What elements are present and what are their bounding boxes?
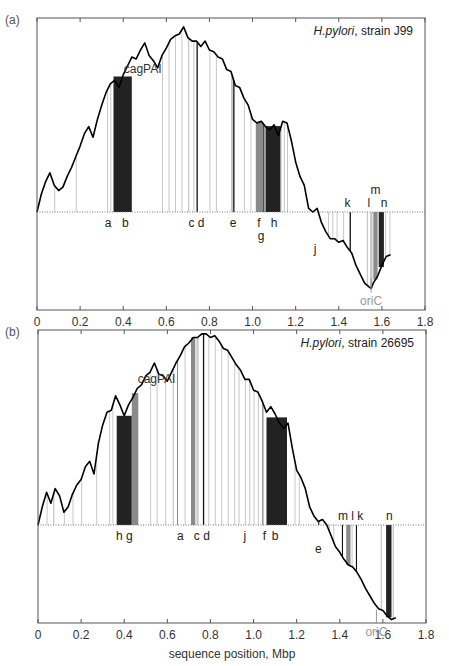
island-bar xyxy=(209,50,210,212)
island-bar xyxy=(332,212,333,239)
island-bar xyxy=(114,77,132,213)
island-bar xyxy=(342,525,343,557)
island-label: f xyxy=(263,529,267,543)
island-bar xyxy=(203,334,204,525)
island-bar xyxy=(208,336,209,525)
oric-label: oriC xyxy=(365,625,387,639)
island-bar xyxy=(112,405,113,525)
island-bar xyxy=(284,122,285,212)
island-bar xyxy=(346,525,350,565)
island-label: b xyxy=(122,216,129,230)
island-bar xyxy=(169,43,170,212)
strain-title: H.pylori, strain J99 xyxy=(314,24,414,38)
x-tick-label: 1.0 xyxy=(245,628,262,642)
island-label: c d xyxy=(189,216,205,230)
island-bar xyxy=(221,346,222,526)
island-label: b xyxy=(272,529,279,543)
x-tick-label: 0.6 xyxy=(158,315,175,329)
island-bar xyxy=(245,379,246,525)
island-bar xyxy=(254,391,255,526)
x-tick-label: 1.8 xyxy=(417,315,434,329)
strain-name: , strain 26695 xyxy=(341,336,414,350)
island-bar xyxy=(258,393,259,525)
island-bar xyxy=(386,525,391,617)
x-tick-label: 1.2 xyxy=(288,628,305,642)
species-name: H.pylori xyxy=(314,24,355,38)
panel-b: 00.20.40.60.81.01.21.41.61.8(b)H.pylori,… xyxy=(5,325,435,642)
island-bar xyxy=(389,212,390,255)
island-bar xyxy=(188,38,189,212)
x-tick-label: 1.4 xyxy=(330,315,347,329)
island-bar xyxy=(393,525,394,619)
panel-a: 00.20.40.60.81.01.21.41.61.8(a)H.pylori,… xyxy=(5,13,434,329)
island-bar xyxy=(47,493,48,525)
island-bar xyxy=(249,381,250,526)
island-label: j xyxy=(313,242,317,256)
island-bar xyxy=(73,493,74,525)
island-bar xyxy=(266,126,281,212)
x-tick-label: 1.0 xyxy=(244,315,261,329)
skew-curve xyxy=(37,27,391,289)
island-bar xyxy=(356,525,357,572)
island-bar xyxy=(244,99,245,212)
island-bar xyxy=(215,336,216,525)
island-label: e xyxy=(230,216,237,230)
island-bar xyxy=(250,114,251,212)
island-label: f xyxy=(257,216,261,230)
island-label: a xyxy=(177,529,184,543)
island-bar xyxy=(350,212,351,251)
island-label: n xyxy=(381,196,388,210)
island-bar xyxy=(379,212,384,267)
island-bar xyxy=(177,361,178,526)
island-bar xyxy=(256,122,263,212)
x-tick-label: 1.4 xyxy=(331,628,348,642)
island-bar xyxy=(196,338,198,526)
island-bar xyxy=(185,346,186,525)
island-label: c d xyxy=(194,529,210,543)
island-bar xyxy=(328,212,329,236)
island-bar xyxy=(162,55,163,212)
island-bar xyxy=(299,475,300,525)
island-bar xyxy=(239,368,240,525)
island-bar xyxy=(109,411,110,525)
island-bar xyxy=(370,212,373,288)
cagpai-annotation: cagPAI xyxy=(124,62,162,76)
island-bar xyxy=(157,370,158,525)
island-bar xyxy=(175,36,176,212)
island-bar xyxy=(81,478,82,525)
cagpai-annotation: cagPAI xyxy=(138,372,176,386)
island-bar xyxy=(107,90,108,212)
island-bar xyxy=(367,212,368,286)
island-bar xyxy=(231,75,233,212)
island-bar xyxy=(373,212,377,280)
island-bar xyxy=(216,55,217,212)
x-tick-label: 0.2 xyxy=(72,315,89,329)
x-tick-label: 0 xyxy=(34,315,41,329)
island-bar xyxy=(193,41,194,212)
island-bar xyxy=(385,212,386,258)
island-bar xyxy=(337,212,338,241)
island-bar xyxy=(281,127,282,212)
island-bar xyxy=(76,156,77,212)
island-bar xyxy=(96,456,97,526)
island-label: h g xyxy=(116,529,133,543)
island-label: n xyxy=(386,509,393,523)
island-label: l xyxy=(368,196,371,210)
island-bar xyxy=(343,212,344,241)
island-bar xyxy=(267,417,288,525)
island-bar xyxy=(381,525,382,610)
island-bar xyxy=(262,403,263,525)
island-label: e xyxy=(315,542,322,556)
x-tick-label: 1.2 xyxy=(287,315,304,329)
chart: 00.20.40.60.81.01.21.41.61.8(a)H.pylori,… xyxy=(0,0,449,666)
x-tick-label: 0.4 xyxy=(115,315,132,329)
oric-label: oriC xyxy=(360,294,382,308)
island-bar xyxy=(263,125,264,212)
x-tick-label: 0.6 xyxy=(159,628,176,642)
island-bar xyxy=(233,81,234,212)
strain-name: , strain J99 xyxy=(354,24,413,38)
island-bar xyxy=(110,84,111,213)
island-bar xyxy=(173,369,174,526)
island-bar xyxy=(352,525,353,567)
x-tick-label: 0.8 xyxy=(201,315,218,329)
